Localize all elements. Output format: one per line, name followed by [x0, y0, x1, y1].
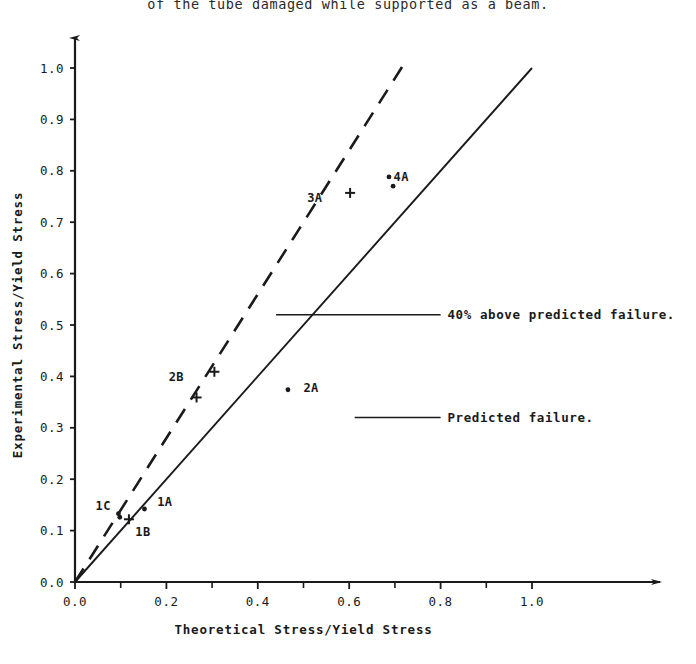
data-point-2A: [286, 387, 291, 392]
data-point-1B: [124, 514, 134, 524]
figure-container: of the tube damaged while supported as a…: [0, 0, 696, 664]
x-tick-label: 0.8: [429, 594, 453, 609]
x-tick-label: 1.0: [520, 594, 544, 609]
point-label-2A: 2A: [304, 381, 320, 395]
predicted-failure-line: [75, 68, 532, 582]
x-tick-label: 0.0: [63, 594, 87, 609]
x-tick-label: 0.4: [246, 594, 270, 609]
y-tick-label: 0.5: [40, 318, 64, 333]
scatter-plot-svg: 0.00.10.20.30.40.50.60.70.80.91.00.00.20…: [0, 0, 696, 664]
axes-layer: 0.00.10.20.30.40.50.60.70.80.91.00.00.20…: [10, 38, 660, 637]
data-point-1A: [142, 507, 147, 512]
annot-40-percent-text: 40% above predicted failure.: [447, 307, 675, 322]
y-tick-label: 0.1: [40, 523, 64, 538]
y-tick-label: 0.7: [40, 215, 64, 230]
y-tick-label: 0.0: [40, 575, 64, 590]
forty-percent-above-line: [75, 64, 404, 582]
y-tick-label: 0.6: [40, 266, 64, 281]
point-label-1A: 1A: [157, 495, 173, 509]
data-point-1C: [117, 515, 122, 520]
x-tick-label: 0.2: [154, 594, 178, 609]
point-label-2B: 2B: [169, 370, 184, 384]
y-tick-label: 0.9: [40, 112, 64, 127]
point-label-4A: 4A: [394, 170, 410, 184]
x-tick-label: 0.6: [337, 594, 361, 609]
data-point-3A: [345, 188, 355, 198]
point-labels-layer: 1A1B1C2A2B3A4A: [96, 170, 410, 539]
data-points-layer: [116, 175, 395, 525]
point-label-1C: 1C: [96, 499, 111, 513]
y-tick-label: 0.2: [40, 472, 64, 487]
y-tick-label: 0.4: [40, 369, 64, 384]
x-axis-title: Theoretical Stress/Yield Stress: [174, 622, 432, 637]
y-axis-title: Experimental Stress/Yield Stress: [10, 192, 25, 458]
annotations-layer: 40% above predicted failure.Predicted fa…: [276, 307, 675, 425]
data-point-4A: [387, 175, 392, 180]
reference-lines-layer: [75, 64, 532, 582]
annot-predicted-text: Predicted failure.: [447, 410, 593, 425]
point-label-1B: 1B: [135, 525, 150, 539]
y-tick-label: 0.8: [40, 163, 64, 178]
point-label-3A: 3A: [307, 191, 323, 205]
y-tick-label: 0.3: [40, 420, 64, 435]
y-tick-label: 1.0: [40, 61, 64, 76]
data-point-4A: [391, 184, 396, 189]
